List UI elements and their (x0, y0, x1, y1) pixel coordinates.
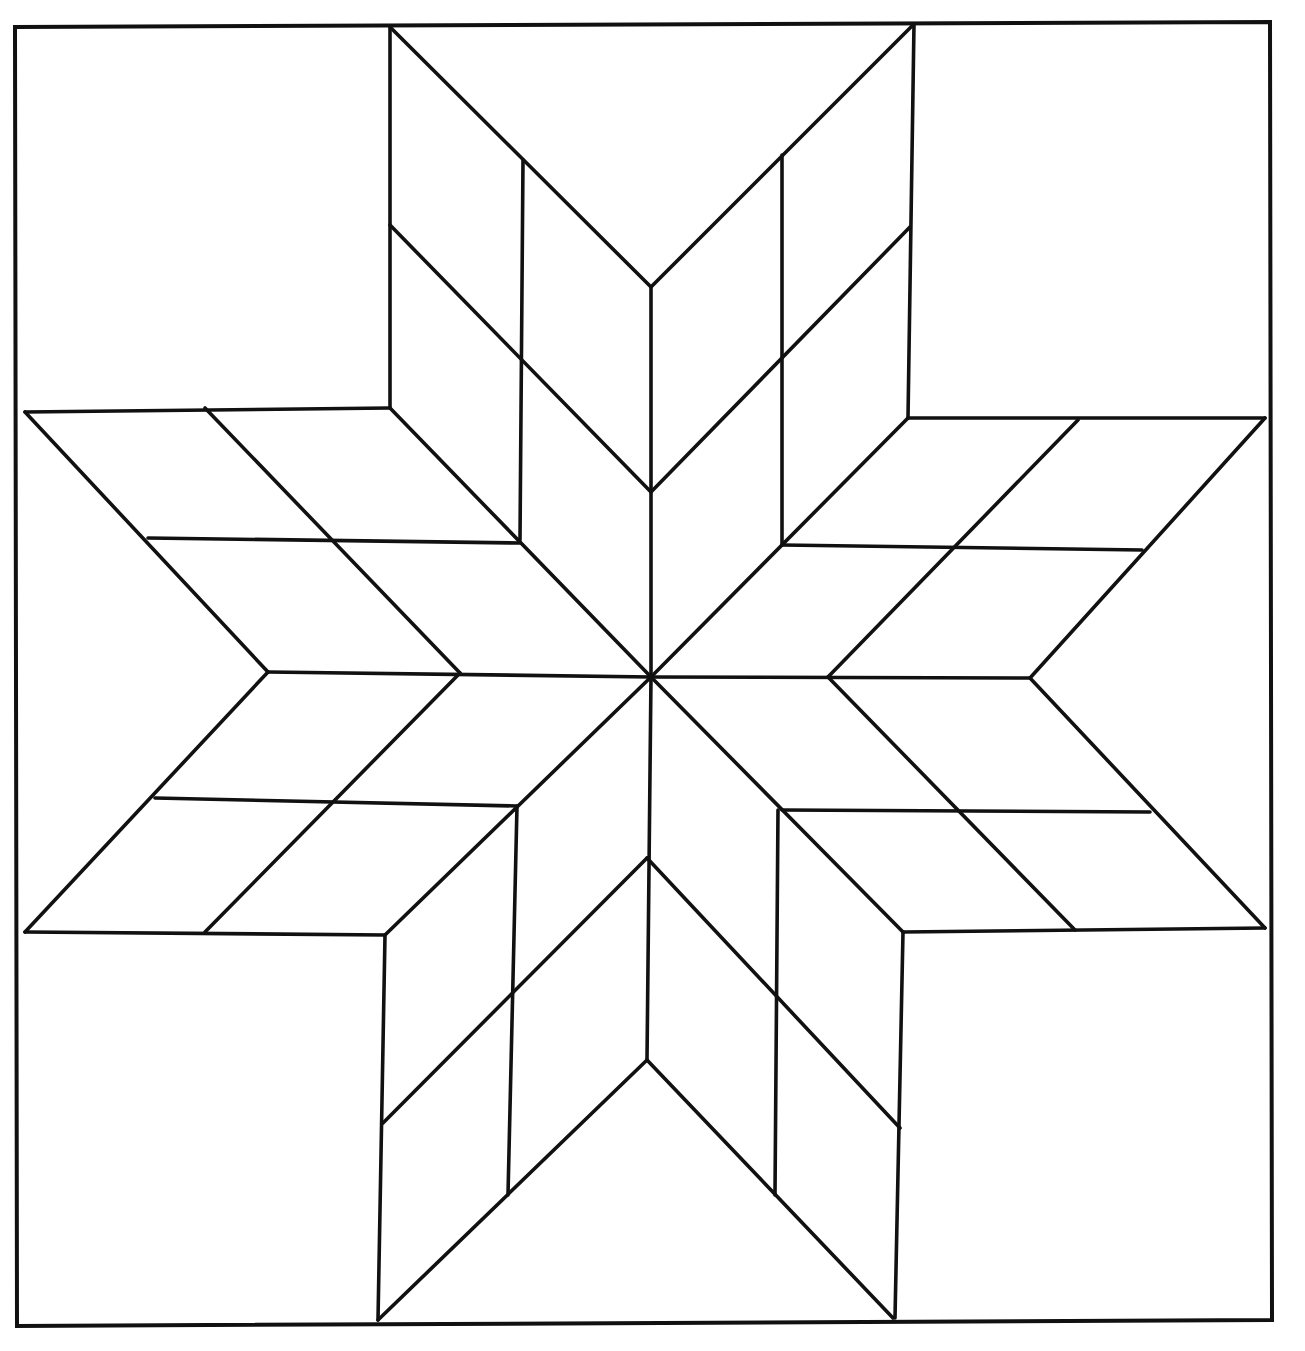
star-line-segment (782, 810, 1150, 812)
star-svg (0, 0, 1305, 1351)
quilt-block-diagram: Eight-pointed star (LeMoyne star) quilt … (0, 0, 1305, 1351)
star-line-segment (651, 677, 1030, 678)
block-frame (15, 22, 1272, 1326)
